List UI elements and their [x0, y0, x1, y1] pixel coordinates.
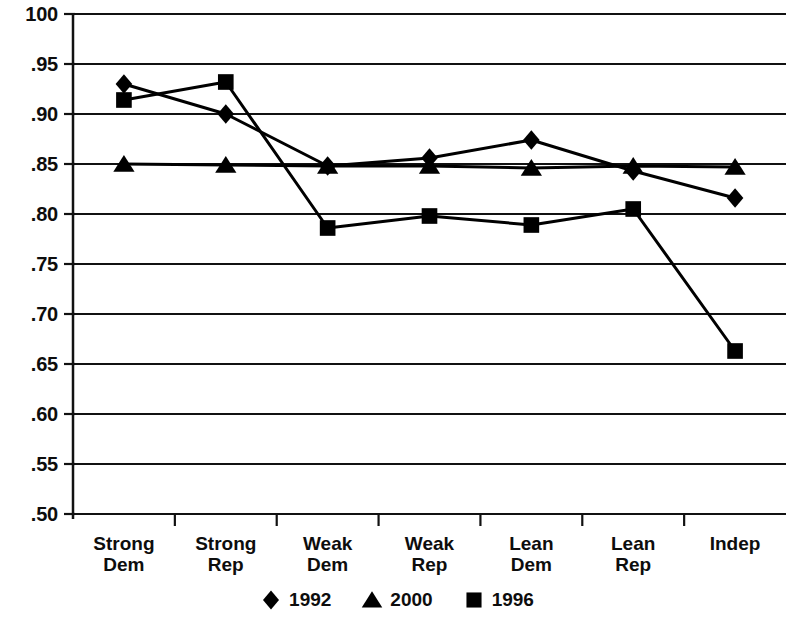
legend-label: 1992 [289, 590, 331, 609]
y-axis-tick-label: .55 [0, 454, 58, 474]
chart-legend: 199220001996 [0, 588, 794, 610]
data-point-marker-1992 [727, 188, 744, 208]
series-line-1992 [124, 84, 735, 198]
x-axis-tick-label-line: Dem [73, 554, 175, 575]
x-axis-tick-label: LeanDem [480, 533, 582, 576]
data-point-marker-1996 [625, 201, 641, 217]
x-axis-tick-label-line: Rep [175, 554, 277, 575]
y-axis-tick-label: .50 [0, 504, 58, 524]
x-axis-tick-label-line: Dem [480, 554, 582, 575]
x-axis-tick-label-line: Dem [277, 554, 379, 575]
data-point-marker-1996 [422, 208, 438, 224]
x-axis-tick-label-line: Strong [73, 533, 175, 554]
y-axis-tick-label: .60 [0, 404, 58, 424]
x-axis-tick-label-line: Lean [480, 533, 582, 554]
x-axis-tick-label-line: Lean [582, 533, 684, 554]
legend-label: 1996 [492, 590, 534, 609]
data-point-marker-1996 [218, 74, 234, 90]
x-axis-tick-label: StrongRep [175, 533, 277, 576]
square-marker-icon [463, 588, 485, 610]
x-axis-tick-label: WeakRep [379, 533, 481, 576]
x-axis-tick-label-line: Rep [582, 554, 684, 575]
y-axis-tick-label: .70 [0, 304, 58, 324]
legend-label: 2000 [390, 590, 432, 609]
y-axis-tick-label: .65 [0, 354, 58, 374]
y-axis-tick-label: .80 [0, 204, 58, 224]
legend-item-1992: 1992 [260, 588, 331, 610]
gridlines [64, 14, 786, 514]
x-axis-tick-label: Indep [684, 533, 786, 554]
x-axis-tick-label-line: Weak [379, 533, 481, 554]
x-axis-tick-label-line: Indep [684, 533, 786, 554]
data-point-marker-1996 [727, 343, 743, 359]
x-axis-tick-label-line: Rep [379, 554, 481, 575]
y-axis-tick-label: .95 [0, 54, 58, 74]
triangle-marker-icon [361, 588, 383, 610]
data-point-marker-1996 [524, 217, 540, 233]
chart-figure: 100.95.90.85.80.75.70.65.60.55.50 Strong… [0, 0, 794, 634]
x-axis-ticks [175, 514, 684, 526]
x-axis-tick-label: WeakDem [277, 533, 379, 576]
x-axis-tick-label-line: Weak [277, 533, 379, 554]
x-axis-tick-label-line: Strong [175, 533, 277, 554]
y-axis-tick-label: .75 [0, 254, 58, 274]
legend-item-2000: 2000 [361, 588, 432, 610]
y-axis-tick-label: .85 [0, 154, 58, 174]
data-point-marker-1992 [217, 104, 234, 124]
x-axis-tick-label: StrongDem [73, 533, 175, 576]
data-point-marker-1992 [116, 74, 133, 94]
series-markers [113, 74, 745, 359]
data-point-marker-1992 [523, 130, 540, 150]
data-point-marker-1996 [320, 220, 336, 236]
data-point-marker-1996 [116, 92, 132, 108]
diamond-marker-icon [260, 588, 282, 610]
y-axis-tick-label: 100 [0, 4, 58, 24]
legend-item-1996: 1996 [463, 588, 534, 610]
x-axis-tick-label: LeanRep [582, 533, 684, 576]
y-axis-tick-label: .90 [0, 104, 58, 124]
